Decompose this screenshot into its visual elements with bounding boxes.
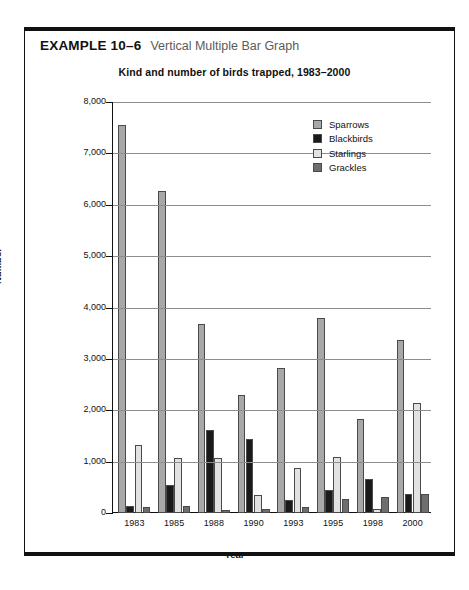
x-axis-tick-label-2000: 2000	[397, 518, 429, 528]
legend-swatch-sparrows	[313, 120, 322, 129]
x-axis-tick-label-1998: 1998	[357, 518, 389, 528]
bar-sparrows-1990	[238, 395, 246, 513]
legend-label-grackles: Grackles	[329, 162, 366, 173]
x-axis-tick-label-1983: 1983	[118, 518, 150, 528]
y-axis-tick	[106, 359, 113, 360]
bar-starlings-1985	[174, 458, 182, 513]
y-axis-tick-label: 8,000	[83, 96, 106, 106]
bar-sparrows-1988	[198, 324, 206, 513]
x-axis-title: Year	[0, 549, 469, 560]
bar-starlings-1995	[333, 457, 341, 513]
plot-area	[113, 102, 431, 513]
y-axis-tick	[106, 153, 113, 154]
y-axis-title: Number	[0, 248, 3, 284]
bar-starlings-1983	[135, 445, 143, 513]
bar-blackbirds-1983	[126, 506, 134, 513]
bar-blackbirds-1998	[365, 479, 373, 513]
legend-swatch-starlings	[313, 149, 322, 158]
legend-item-starlings: Starlings	[313, 146, 373, 161]
y-axis-tick	[106, 205, 113, 206]
x-axis-tick-label-1990: 1990	[238, 518, 270, 528]
chart-legend: SparrowsBlackbirdsStarlingsGrackles	[313, 117, 373, 175]
gridline	[113, 410, 431, 411]
bar-blackbirds-1993	[285, 500, 293, 513]
bar-grackles-1993	[302, 507, 310, 513]
bar-blackbirds-1988	[206, 430, 214, 513]
y-axis-tick-label: 1,000	[83, 456, 106, 466]
bar-starlings-1990	[254, 495, 262, 513]
y-axis-tick-label: 4,000	[83, 302, 106, 312]
figure-page: EXAMPLE 10–6Vertical Multiple Bar Graph …	[0, 0, 469, 590]
bar-grackles-2000	[421, 494, 429, 513]
bar-grackles-1988	[222, 510, 230, 513]
legend-swatch-blackbirds	[313, 134, 322, 143]
y-axis-tick-label: 5,000	[83, 250, 106, 260]
bar-sparrows-2000	[397, 340, 405, 513]
y-axis-tick	[106, 462, 113, 463]
legend-swatch-grackles	[313, 163, 322, 172]
legend-label-sparrows: Sparrows	[329, 119, 369, 130]
y-axis-tick	[106, 256, 113, 257]
bar-sparrows-1983	[118, 125, 126, 513]
gridline	[113, 153, 431, 154]
bar-starlings-1998	[373, 509, 381, 513]
y-axis-tick	[106, 410, 113, 411]
y-axis-tick-label: 7,000	[83, 147, 106, 157]
y-axis-tick-label: 2,000	[83, 404, 106, 414]
bar-sparrows-1998	[357, 419, 365, 513]
y-axis-tick	[106, 102, 113, 103]
bar-grackles-1990	[262, 509, 270, 513]
bar-starlings-1993	[294, 468, 302, 513]
gridline	[113, 256, 431, 257]
y-axis-tick-label: 6,000	[83, 199, 106, 209]
y-axis-tick-label: 3,000	[83, 353, 106, 363]
bar-grackles-1983	[143, 507, 151, 513]
x-axis-tick-label-1993: 1993	[277, 518, 309, 528]
bar-starlings-1988	[214, 458, 222, 513]
y-axis-tick	[106, 308, 113, 309]
bar-sparrows-1995	[317, 318, 325, 513]
bar-grackles-1995	[342, 499, 350, 513]
y-axis-tick	[106, 513, 113, 514]
legend-item-grackles: Grackles	[313, 161, 373, 176]
gridline	[113, 308, 431, 309]
legend-item-blackbirds: Blackbirds	[313, 132, 373, 147]
y-axis-tick-labels: 01,0002,0003,0004,0005,0006,0007,0008,00…	[62, 0, 106, 590]
legend-label-blackbirds: Blackbirds	[329, 133, 373, 144]
gridline	[113, 359, 431, 360]
gridline	[113, 102, 431, 103]
legend-item-sparrows: Sparrows	[313, 117, 373, 132]
bar-blackbirds-1990	[246, 439, 254, 513]
x-axis-tick-label-1985: 1985	[158, 518, 190, 528]
bar-sparrows-1993	[277, 368, 285, 513]
legend-label-starlings: Starlings	[329, 148, 366, 159]
gridline	[113, 462, 431, 463]
bar-blackbirds-1985	[166, 485, 174, 513]
x-axis-tick-label-1995: 1995	[317, 518, 349, 528]
bar-sparrows-1985	[158, 191, 166, 513]
x-axis-tick-label-1988: 1988	[198, 518, 230, 528]
bar-blackbirds-1995	[325, 490, 333, 513]
gridline	[113, 205, 431, 206]
y-axis-tick-label: 0	[101, 507, 106, 517]
bar-starlings-2000	[413, 403, 421, 513]
bar-grackles-1985	[183, 506, 191, 513]
bar-blackbirds-2000	[405, 494, 413, 513]
example-title: Vertical Multiple Bar Graph	[150, 39, 299, 53]
bar-grackles-1998	[381, 497, 389, 513]
